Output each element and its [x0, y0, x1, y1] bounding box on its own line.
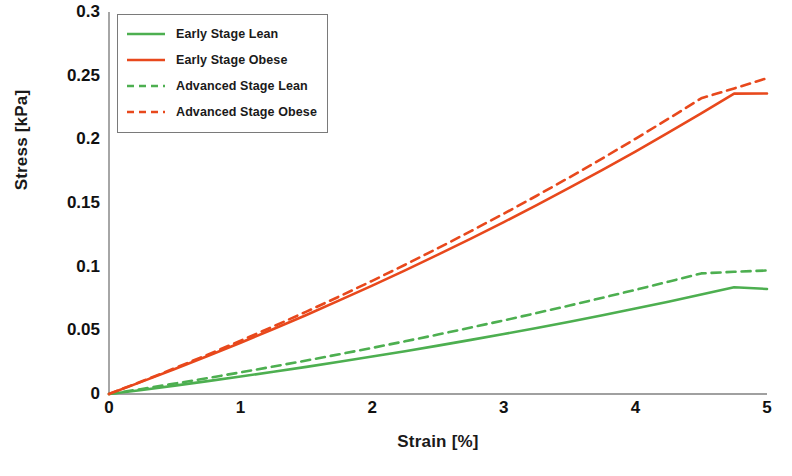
stress-strain-chart: Stress [kPa] 0.30.250.20.150.10.050 0123…	[0, 0, 792, 476]
legend-label: Early Stage Obese	[176, 53, 287, 67]
legend-swatch-dashed-icon	[126, 105, 166, 119]
legend-item[interactable]: Early Stage Obese	[126, 47, 317, 73]
legend-label: Advanced Stage Obese	[176, 105, 317, 119]
series-line-advanced-stage-lean	[109, 270, 767, 394]
legend-swatch-dashed-icon	[126, 79, 166, 93]
legend-label: Early Stage Lean	[176, 27, 278, 41]
legend-item[interactable]: Early Stage Lean	[126, 21, 317, 47]
series-line-early-stage-obese	[109, 93, 767, 394]
legend-label: Advanced Stage Lean	[176, 79, 308, 93]
legend-swatch-solid-icon	[126, 53, 166, 67]
legend-item[interactable]: Advanced Stage Lean	[126, 73, 317, 99]
legend-item[interactable]: Advanced Stage Obese	[126, 99, 317, 125]
chart-legend: Early Stage LeanEarly Stage ObeseAdvance…	[117, 14, 328, 133]
legend-swatch-solid-icon	[126, 27, 166, 41]
